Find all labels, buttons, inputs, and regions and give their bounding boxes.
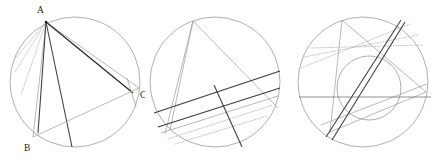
transversal-chord	[214, 85, 242, 147]
dotted-parallel-3	[310, 45, 423, 48]
parallel-chord-2	[158, 88, 280, 127]
circle-diagram-left: A B C	[0, 0, 145, 159]
circle-diagram-right	[290, 0, 436, 159]
inner-circle-right	[337, 56, 401, 120]
chord-b-c	[33, 88, 139, 137]
parallel-chord-3	[161, 96, 278, 133]
parallel-chord-dotted-1	[168, 105, 273, 139]
point-label-a: A	[37, 5, 44, 15]
vertex-dot-a	[45, 21, 48, 24]
segment-a-b	[33, 22, 46, 137]
circle-outline-middle	[150, 17, 280, 147]
chord-top-to-bottomleft	[170, 21, 193, 130]
triangle-edge-bottom	[330, 92, 426, 132]
circle-outline-left	[10, 17, 140, 147]
ray-a-b-dark	[38, 22, 46, 133]
dotted-parallel-2	[304, 35, 418, 57]
chord-top-to-right	[193, 21, 278, 108]
point-label-b: B	[24, 143, 30, 153]
circle-diagram-middle	[145, 0, 291, 159]
dotted-ray-a1	[14, 22, 46, 60]
ray-a-right-upper	[46, 22, 139, 88]
dotted-ray-a3	[21, 22, 46, 95]
figure-container: A B C	[0, 0, 436, 159]
parallel-chord-dotted-2	[175, 116, 267, 144]
dark-diagonal-2	[332, 22, 405, 140]
